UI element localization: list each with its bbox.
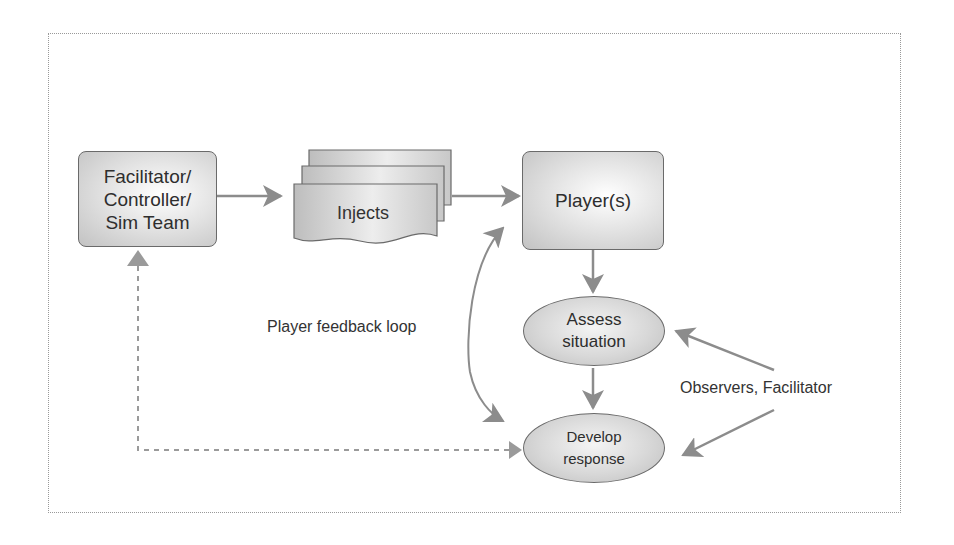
injects-stack xyxy=(294,150,451,243)
dashed-arrowhead-up xyxy=(127,250,149,266)
label-player-feedback-loop: Player feedback loop xyxy=(267,318,416,336)
node-players: Player(s) xyxy=(522,151,664,250)
edge-develop-facilitator-dashed xyxy=(138,260,519,450)
edge-feedback-loop xyxy=(468,228,503,421)
node-develop-response: Develop response xyxy=(523,413,665,483)
node-facilitator: Facilitator/ Controller/ Sim Team xyxy=(78,151,217,247)
dashed-arrowhead-right xyxy=(509,441,522,459)
edge-observers-develop xyxy=(683,410,774,455)
label-observers-facilitator: Observers, Facilitator xyxy=(680,379,832,397)
node-injects-label: Injects xyxy=(337,203,389,224)
node-assess-situation: Assess situation xyxy=(523,296,665,366)
edge-observers-assess xyxy=(676,331,774,370)
edge-layer xyxy=(0,0,954,545)
